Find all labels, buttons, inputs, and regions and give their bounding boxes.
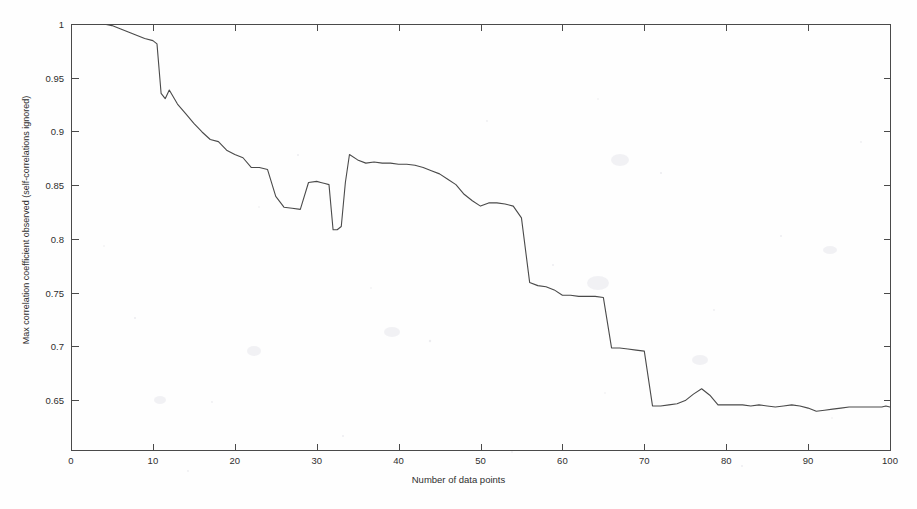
x-axis-tick-top (317, 25, 318, 31)
x-axis-tick-label: 30 (311, 455, 322, 466)
y-axis-tick-right (884, 400, 891, 401)
y-axis-label: Max correlation coefficient observed (se… (21, 30, 31, 410)
x-axis-tick (71, 444, 72, 450)
data-series-line (71, 24, 890, 450)
x-axis-tick (235, 444, 236, 450)
x-axis-tick (808, 444, 809, 450)
x-axis-tick (481, 444, 482, 450)
chart-figure: 01020304050607080901000.650.70.750.80.85… (0, 0, 917, 509)
x-axis-tick (153, 444, 154, 450)
x-axis-tick-label: 70 (639, 455, 650, 466)
x-axis-tick (890, 444, 891, 450)
x-axis-tick-top (644, 25, 645, 31)
x-axis-tick (399, 444, 400, 450)
x-axis-tick-label: 40 (393, 455, 404, 466)
y-axis-tick-right (884, 239, 891, 240)
x-axis-tick-top (808, 25, 809, 31)
y-axis-tick-label: 0.8 (51, 233, 64, 244)
x-axis-tick-top (890, 25, 891, 31)
y-axis-tick-label: 0.9 (51, 126, 64, 137)
y-axis-tick (72, 24, 79, 25)
y-axis-tick-label: 0.7 (51, 341, 64, 352)
y-axis-tick-right (884, 346, 891, 347)
y-axis-tick (72, 400, 79, 401)
x-axis-tick-label: 50 (475, 455, 486, 466)
y-axis-tick-label: 0.75 (46, 287, 65, 298)
y-axis-tick-right (884, 293, 891, 294)
y-axis-tick (72, 239, 79, 240)
x-axis-tick-top (562, 25, 563, 31)
x-axis-tick-top (71, 25, 72, 31)
x-axis-line (71, 450, 891, 451)
y-axis-tick-label: 1 (59, 19, 64, 30)
plot-area (71, 24, 890, 450)
x-axis-tick (726, 444, 727, 450)
x-axis-label: Number of data points (0, 474, 917, 485)
x-axis-tick-top (235, 25, 236, 31)
y-axis-tick-right (884, 78, 891, 79)
x-axis-tick-top (726, 25, 727, 31)
y-axis-tick (72, 293, 79, 294)
x-axis-tick-label: 100 (882, 455, 898, 466)
y-axis-tick-label: 0.85 (46, 180, 65, 191)
x-axis-tick-top (399, 25, 400, 31)
plot-right-border (890, 24, 891, 451)
x-axis-tick-label: 80 (721, 455, 732, 466)
x-axis-tick (644, 444, 645, 450)
x-axis-tick-label: 10 (148, 455, 159, 466)
y-axis-tick (72, 131, 79, 132)
x-axis-tick (317, 444, 318, 450)
x-axis-tick-label: 90 (803, 455, 814, 466)
y-axis-tick-right (884, 131, 891, 132)
y-axis-tick-right (884, 185, 891, 186)
x-axis-tick-label: 0 (68, 455, 73, 466)
y-axis-tick (72, 78, 79, 79)
y-axis-tick-label: 0.95 (46, 72, 65, 83)
y-axis-tick (72, 346, 79, 347)
y-axis-tick (72, 185, 79, 186)
x-axis-tick-top (481, 25, 482, 31)
y-axis-tick-label: 0.65 (46, 395, 65, 406)
y-axis-tick-right (884, 24, 891, 25)
x-axis-tick-label: 20 (230, 455, 241, 466)
x-axis-tick-label: 60 (557, 455, 568, 466)
x-axis-tick-top (153, 25, 154, 31)
x-axis-tick (562, 444, 563, 450)
